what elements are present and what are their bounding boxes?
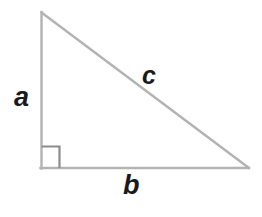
right-triangle-figure: a b c: [0, 0, 262, 217]
side-label-c: c: [142, 63, 156, 88]
side-label-b: b: [123, 172, 140, 199]
side-label-a: a: [14, 84, 29, 111]
